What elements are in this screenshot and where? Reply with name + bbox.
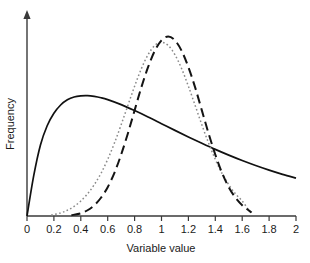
x-axis-tick-label: 1.6 <box>235 223 250 235</box>
distribution-chart: 00.20.40.60.811.21.41.61.82 Variable val… <box>0 0 310 263</box>
series-line-narrow-peaked-distribution-dotted <box>51 42 249 215</box>
series-line-narrow-peaked-distribution-dashed <box>71 36 251 215</box>
series-line-broad-skewed-distribution <box>27 96 296 216</box>
y-axis-title: Frequency <box>4 98 16 150</box>
x-axis-tick-label: 0.6 <box>100 223 115 235</box>
x-axis <box>27 216 296 221</box>
x-axis-tick-label: 1.2 <box>181 223 196 235</box>
x-axis-tick-label: 1.4 <box>208 223 223 235</box>
chart-container: 00.20.40.60.811.21.41.61.82 Variable val… <box>0 0 310 263</box>
x-axis-tick-label: 0.2 <box>46 223 61 235</box>
x-axis-tick-label: 0.4 <box>73 223 88 235</box>
x-axis-tick-label: 0.8 <box>127 223 142 235</box>
y-axis-arrowhead <box>23 10 30 19</box>
x-axis-tick-label: 0 <box>24 223 30 235</box>
x-axis-tick-label: 2 <box>293 223 299 235</box>
y-axis <box>23 10 30 216</box>
x-axis-tick-label: 1 <box>158 223 164 235</box>
x-axis-tick-label: 1.8 <box>261 223 276 235</box>
x-axis-tick-labels: 00.20.40.60.811.21.41.61.82 <box>24 223 299 235</box>
x-axis-ticks <box>27 216 296 221</box>
x-axis-title: Variable value <box>127 242 196 254</box>
series-layer <box>27 36 296 216</box>
